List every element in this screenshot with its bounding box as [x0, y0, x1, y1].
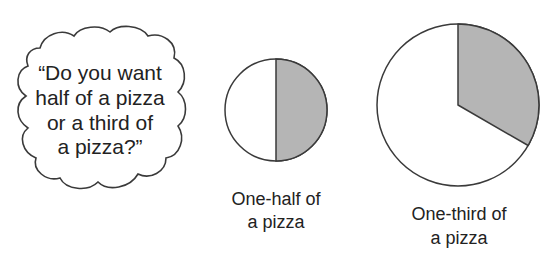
bubble-line-4: a pizza?” — [57, 135, 142, 158]
third-pizza-label-line-2: a pizza — [430, 228, 488, 248]
bubble-line-3: or a third of — [47, 111, 153, 134]
half-pizza-shaded-slice — [276, 59, 327, 161]
half-pizza: One-half of a pizza — [225, 59, 327, 232]
speech-cloud: “Do you want half of a pizza or a third … — [18, 26, 186, 188]
half-pizza-label-line-2: a pizza — [247, 212, 305, 232]
pizza-fraction-diagram: “Do you want half of a pizza or a third … — [0, 0, 546, 260]
third-pizza: One-third of a pizza — [377, 24, 539, 248]
bubble-line-2: half of a pizza — [35, 86, 165, 109]
half-pizza-label-line-1: One-half of — [231, 189, 321, 209]
third-pizza-label-line-1: One-third of — [411, 204, 507, 224]
bubble-line-1: “Do you want — [38, 61, 162, 84]
